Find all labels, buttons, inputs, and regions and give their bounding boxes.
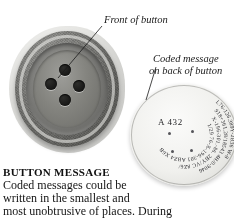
callout-coded-message-line1: Coded message <box>153 53 219 64</box>
callout-coded-message: Coded message on back of button <box>153 53 222 76</box>
leader-line-front-of-button <box>58 26 102 78</box>
callout-front-of-button: Front of button <box>104 14 168 26</box>
callout-coded-message-line2: on back of button <box>149 65 222 77</box>
caption-heading: BUTTON MESSAGE <box>3 166 203 178</box>
figure-page: L76-126.389Y-2B36 W-8 918+361.28/18543 4… <box>0 0 234 222</box>
caption-block: BUTTON MESSAGE Coded messages could be w… <box>3 166 203 219</box>
caption-line: most unobtrusive of places. During <box>3 205 203 218</box>
